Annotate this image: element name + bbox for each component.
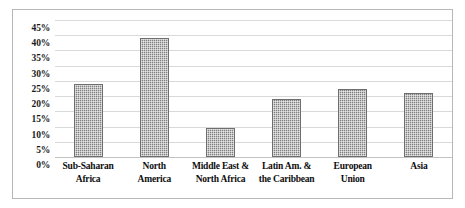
- y-axis-tick-label: 25%: [12, 85, 50, 95]
- y-axis-tick-label: 30%: [12, 70, 50, 80]
- x-axis-category-label-line: Middle East &: [188, 160, 252, 173]
- bar-slot: [187, 20, 253, 157]
- y-axis-tick-label: 20%: [12, 100, 50, 110]
- x-axis-category-label-line: Sub-Saharan: [56, 160, 120, 173]
- bar-slot: [254, 20, 320, 157]
- x-axis-category-label: Asia: [386, 160, 452, 173]
- x-axis-category-label-line: Africa: [56, 173, 120, 186]
- x-axis-category-label: Middle East &North Africa: [187, 160, 253, 186]
- y-axis: 0%5%10%15%20%25%30%35%40%45%: [12, 9, 54, 199]
- chart-container: 0%5%10%15%20%25%30%35%40%45% Sub-Saharan…: [0, 0, 465, 208]
- x-axis-category-label: NorthAmerica: [121, 160, 187, 186]
- axis-baseline: [55, 157, 452, 158]
- x-axis-category-label-line: North Africa: [188, 173, 252, 186]
- y-axis-tick-label: 5%: [12, 146, 50, 156]
- x-axis-category-label-line: North: [122, 160, 186, 173]
- bar[interactable]: [338, 89, 367, 158]
- y-axis-tick-label: 45%: [12, 24, 50, 34]
- y-axis-tick-label: 0%: [12, 161, 50, 171]
- x-axis-category-label: Sub-SaharanAfrica: [55, 160, 121, 186]
- bar-slot: [121, 20, 187, 157]
- x-axis-category-label-line: Latin Am. &: [255, 160, 319, 173]
- y-axis-tick-label: 10%: [12, 131, 50, 141]
- bar[interactable]: [140, 38, 169, 157]
- bar[interactable]: [272, 99, 301, 157]
- x-axis-category-label: Latin Am. &the Caribbean: [254, 160, 320, 186]
- bar-slot: [386, 20, 452, 157]
- x-axis-category-label-line: the Caribbean: [255, 173, 319, 186]
- y-axis-tick-label: 15%: [12, 116, 50, 126]
- x-axis-category-label: EuropeanUnion: [320, 160, 386, 186]
- bar-slot: [320, 20, 386, 157]
- x-axis: Sub-SaharanAfricaNorthAmericaMiddle East…: [55, 160, 452, 198]
- x-axis-category-label-line: America: [122, 173, 186, 186]
- x-axis-category-label-line: Asia: [387, 160, 451, 173]
- y-axis-tick-label: 40%: [12, 39, 50, 49]
- x-axis-category-label-line: Union: [321, 173, 385, 186]
- bar[interactable]: [74, 84, 103, 157]
- bar[interactable]: [206, 128, 235, 157]
- x-axis-category-label-line: European: [321, 160, 385, 173]
- bar-series: [55, 20, 452, 157]
- bar-slot: [55, 20, 121, 157]
- bar[interactable]: [404, 93, 433, 157]
- y-axis-tick-label: 35%: [12, 55, 50, 65]
